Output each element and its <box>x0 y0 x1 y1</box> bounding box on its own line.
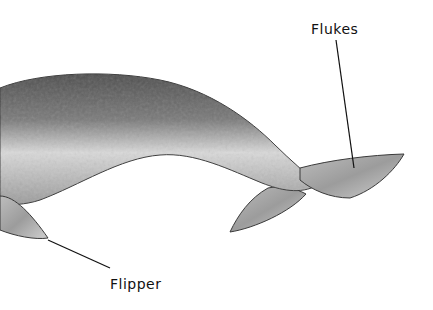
whale-illustration <box>0 0 433 310</box>
flipper-leader-line <box>48 240 110 268</box>
label-flukes: Flukes <box>311 21 358 37</box>
whale-diagram: Flukes Flipper <box>0 0 433 310</box>
flukes-leader-line <box>336 40 354 168</box>
lower-fluke <box>230 187 306 232</box>
upper-fluke <box>300 154 404 198</box>
label-flipper: Flipper <box>110 276 161 292</box>
